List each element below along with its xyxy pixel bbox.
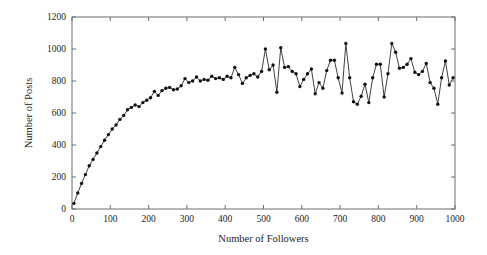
data-point-marker (394, 51, 397, 54)
data-point-marker (421, 70, 424, 73)
data-point-marker (333, 59, 336, 62)
data-point-marker (76, 191, 79, 194)
y-tick-label: 200 (52, 172, 67, 182)
data-point-marker (340, 91, 343, 94)
x-tick-label: 200 (141, 214, 156, 224)
data-point-marker (114, 123, 117, 126)
data-point-marker (382, 95, 385, 98)
data-point-marker (356, 103, 359, 106)
data-point-marker (172, 88, 175, 91)
data-point-marker (367, 101, 370, 104)
y-tick-label: 600 (52, 108, 67, 118)
data-point-marker (137, 105, 140, 108)
y-tick-label: 1000 (47, 44, 66, 54)
data-point-marker (325, 69, 328, 72)
data-point-marker (233, 66, 236, 69)
data-point-marker (168, 86, 171, 89)
data-point-marker (222, 78, 225, 81)
data-point-marker (440, 76, 443, 79)
data-point-marker (99, 145, 102, 148)
data-point-marker (225, 75, 228, 78)
data-point-marker (375, 62, 378, 65)
data-point-marker (306, 72, 309, 75)
data-point-marker (432, 87, 435, 90)
data-point-marker (183, 77, 186, 80)
data-point-marker (348, 76, 351, 79)
data-point-marker (241, 82, 244, 85)
data-point-marker (118, 118, 121, 121)
data-point-marker (145, 99, 148, 102)
data-point-marker (268, 68, 271, 71)
y-tick-label: 800 (52, 76, 67, 86)
data-point-marker (95, 151, 98, 154)
y-tick-label: 0 (61, 204, 66, 214)
data-point-marker (256, 75, 259, 78)
data-point-marker (141, 101, 144, 104)
data-point-marker (405, 62, 408, 65)
data-point-marker (130, 106, 133, 109)
data-point-marker (310, 67, 313, 70)
data-point-marker (164, 87, 167, 90)
x-tick-label: 0 (70, 214, 75, 224)
data-point-marker (298, 85, 301, 88)
data-point-marker (156, 94, 159, 97)
data-point-marker (283, 66, 286, 69)
data-point-marker (229, 76, 232, 79)
data-point-marker (428, 81, 431, 84)
data-point-marker (122, 114, 125, 117)
data-point-marker (409, 57, 412, 60)
y-tick-label: 400 (52, 140, 67, 150)
plot-box (72, 17, 455, 209)
data-point-marker (179, 84, 182, 87)
x-tick-label: 500 (256, 214, 271, 224)
data-point-marker (279, 46, 282, 49)
data-point-marker (287, 65, 290, 68)
data-point-marker (107, 133, 110, 136)
plot-frame (72, 17, 455, 209)
data-point-marker (91, 158, 94, 161)
y-axis-ticks: 020040060080010001200 (47, 12, 455, 214)
data-point-marker (103, 139, 106, 142)
data-point-marker (425, 62, 428, 65)
x-axis-ticks: 01002003004005006007008009001000 (70, 17, 465, 224)
x-tick-label: 600 (295, 214, 310, 224)
data-point-marker (237, 73, 240, 76)
data-point-marker (111, 127, 114, 130)
data-point-marker (133, 103, 136, 106)
data-point-marker (379, 62, 382, 65)
x-tick-label: 700 (333, 214, 348, 224)
data-point-marker (436, 103, 439, 106)
data-point-marker (317, 81, 320, 84)
x-tick-label: 400 (218, 214, 233, 224)
x-tick-label: 900 (410, 214, 425, 224)
data-point-marker (195, 75, 198, 78)
data-point-marker (252, 72, 255, 75)
data-point-marker (336, 76, 339, 79)
data-point-marker (344, 42, 347, 45)
data-point-marker (260, 70, 263, 73)
data-point-marker (321, 87, 324, 90)
data-point-marker (80, 182, 83, 185)
x-axis-title: Number of Followers (218, 233, 308, 244)
x-tick-label: 100 (103, 214, 118, 224)
data-point-marker (386, 72, 389, 75)
x-tick-label: 300 (180, 214, 195, 224)
data-point-marker (72, 202, 75, 205)
data-point-marker (329, 59, 332, 62)
data-point-marker (390, 42, 393, 45)
data-point-marker (413, 71, 416, 74)
y-axis-title: Number of Posts (23, 78, 34, 149)
data-point-marker (245, 76, 248, 79)
data-point-marker (84, 173, 87, 176)
data-point-marker (248, 74, 251, 77)
series-line (74, 43, 453, 203)
chart-figure: 01002003004005006007008009001000 0200400… (0, 0, 487, 255)
data-point-marker (448, 83, 451, 86)
data-point-marker (291, 70, 294, 73)
data-point-marker (398, 67, 401, 70)
x-tick-label: 1000 (446, 214, 465, 224)
data-point-marker (149, 96, 152, 99)
data-point-marker (88, 164, 91, 167)
data-point-marker (363, 83, 366, 86)
data-point-marker (153, 90, 156, 93)
